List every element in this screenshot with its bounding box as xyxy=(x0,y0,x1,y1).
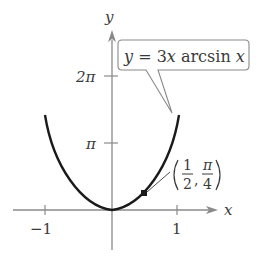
y-tick-label-pi: π xyxy=(85,135,97,153)
point-comma: , xyxy=(194,172,198,188)
point-x-numerator: 1 xyxy=(183,157,192,173)
callout-x2: x xyxy=(236,47,245,66)
x-axis-label: x xyxy=(224,201,233,219)
point-y-denominator: 4 xyxy=(203,176,212,192)
equation-callout: y = 3x arcsin x xyxy=(118,40,249,113)
point-label: 1 2 , π 4 xyxy=(174,157,220,192)
callout-eq: = 3 xyxy=(133,47,167,66)
y-axis xyxy=(104,30,118,250)
point-marker xyxy=(141,190,147,196)
svg-text:y = 3x arcsin x: y = 3x arcsin x xyxy=(123,47,245,66)
x-tick-label-1: 1 xyxy=(172,220,182,238)
callout-fn: arcsin xyxy=(176,47,236,66)
function-graph: y = 3x arcsin x y x −1 1 2π π 1 2 , π 4 xyxy=(0,0,260,257)
point-x-denominator: 2 xyxy=(183,176,192,192)
point-y-numerator: π xyxy=(202,157,213,173)
y-tick-label-2pi: 2π xyxy=(75,68,97,86)
y-axis-label: y xyxy=(104,8,114,26)
callout-x: x xyxy=(167,47,176,66)
x-tick-label-neg1: −1 xyxy=(30,220,52,238)
